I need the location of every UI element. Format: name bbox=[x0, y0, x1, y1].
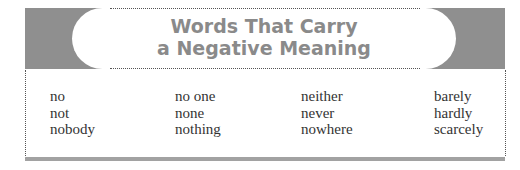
bottom-bar bbox=[25, 157, 505, 161]
header-dotted-top bbox=[110, 8, 420, 9]
box-border-left bbox=[25, 70, 26, 156]
page-title: Words That Carry a Negative Meaning bbox=[72, 15, 456, 59]
word-item: no bbox=[50, 88, 95, 105]
word-item: scarcely bbox=[434, 121, 483, 138]
word-item: nowhere bbox=[301, 121, 353, 138]
word-item: barely bbox=[434, 88, 483, 105]
word-item: nobody bbox=[50, 121, 95, 138]
header-dotted-bottom bbox=[110, 68, 420, 69]
word-item: hardly bbox=[434, 105, 483, 122]
word-item: neither bbox=[301, 88, 353, 105]
word-column-4: barely hardly scarcely bbox=[434, 88, 483, 138]
box-border-right bbox=[505, 70, 506, 156]
word-item: not bbox=[50, 105, 95, 122]
word-column-2: no one none nothing bbox=[175, 88, 221, 138]
title-line-1: Words That Carry bbox=[72, 15, 456, 37]
title-line-2: a Negative Meaning bbox=[72, 37, 456, 59]
word-column-1: no not nobody bbox=[50, 88, 95, 138]
word-item: no one bbox=[175, 88, 221, 105]
word-column-3: neither never nowhere bbox=[301, 88, 353, 138]
word-item: never bbox=[301, 105, 353, 122]
word-item: none bbox=[175, 105, 221, 122]
word-item: nothing bbox=[175, 121, 221, 138]
